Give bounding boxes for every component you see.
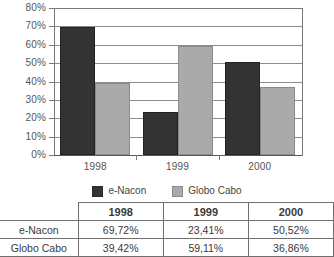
legend-item-e-nacon: e-Nacon bbox=[92, 186, 146, 197]
y-axis-tick bbox=[49, 118, 54, 119]
table-body: e-Nacon 69,72% 23,41% 50,52% Globo Cabo … bbox=[0, 221, 334, 257]
x-axis-tick bbox=[136, 155, 137, 160]
table-cell-e-nacon-2000: 50,52% bbox=[248, 221, 333, 239]
y-axis-tick-label: 70% bbox=[25, 21, 46, 31]
x-axis-label-1999: 1999 bbox=[166, 161, 189, 172]
table-row-label-globo-cabo: Globo Cabo bbox=[0, 239, 78, 257]
table-col-header-1999: 1999 bbox=[163, 203, 248, 221]
legend-item-globo-cabo: Globo Cabo bbox=[172, 186, 241, 197]
bar-chart-figure: 0%10%20%30%40%50%60%70%80% 199819992000 … bbox=[0, 0, 334, 257]
dark-square-swatch bbox=[92, 186, 103, 197]
y-axis-tick bbox=[49, 26, 54, 27]
table-cell-e-nacon-1999: 23,41% bbox=[163, 221, 248, 239]
plot-area-wrapper: 0%10%20%30%40%50%60%70%80% 199819992000 bbox=[0, 0, 334, 182]
y-axis-tick bbox=[49, 82, 54, 83]
y-axis-tick-label: 80% bbox=[25, 3, 46, 13]
legend-label: Globo Cabo bbox=[188, 186, 241, 196]
y-axis-tick-label: 60% bbox=[25, 40, 46, 50]
table-col-header-1998: 1998 bbox=[78, 203, 163, 221]
y-axis-tick-label: 10% bbox=[25, 132, 46, 142]
data-table: 1998 1999 2000 e-Nacon 69,72% 23,41% 50,… bbox=[0, 202, 334, 257]
table-header: 1998 1999 2000 bbox=[0, 203, 334, 221]
x-axis-line bbox=[54, 155, 302, 156]
x-axis-tick bbox=[219, 155, 220, 160]
y-axis-tick bbox=[49, 8, 54, 9]
bar-globo-cabo-2000 bbox=[260, 87, 295, 155]
y-axis-tick bbox=[49, 137, 54, 138]
bar-globo-cabo-1999 bbox=[178, 46, 213, 155]
bar-e-nacon-1998 bbox=[60, 27, 95, 155]
table-corner-cell bbox=[0, 203, 78, 221]
y-axis-tick-label: 50% bbox=[25, 58, 46, 68]
table-cell-globo-cabo-1999: 59,11% bbox=[163, 239, 248, 257]
x-axis-label-1998: 1998 bbox=[84, 161, 107, 172]
y-axis-tick bbox=[49, 45, 54, 46]
y-axis-labels: 0%10%20%30%40%50%60%70%80% bbox=[0, 0, 52, 182]
table-cell-globo-cabo-2000: 36,86% bbox=[248, 239, 333, 257]
bar-e-nacon-1999 bbox=[143, 112, 178, 155]
data-table-wrapper: 1998 1999 2000 e-Nacon 69,72% 23,41% 50,… bbox=[0, 202, 334, 257]
gray-square-swatch bbox=[172, 186, 183, 197]
bar-series-container bbox=[54, 8, 301, 155]
table-header-row: 1998 1999 2000 bbox=[0, 203, 334, 221]
bar-globo-cabo-1998 bbox=[95, 83, 130, 155]
x-axis-label-2000: 2000 bbox=[248, 161, 271, 172]
table-row: e-Nacon 69,72% 23,41% 50,52% bbox=[0, 221, 334, 239]
y-axis-tick-label: 20% bbox=[25, 113, 46, 123]
table-row: Globo Cabo 39,42% 59,11% 36,86% bbox=[0, 239, 334, 257]
table-cell-e-nacon-1998: 69,72% bbox=[78, 221, 163, 239]
y-axis-tick bbox=[49, 155, 54, 156]
legend-label: e-Nacon bbox=[108, 186, 146, 196]
y-axis-tick bbox=[49, 100, 54, 101]
y-axis-tick-label: 0% bbox=[31, 150, 46, 160]
table-col-header-2000: 2000 bbox=[248, 203, 333, 221]
bar-e-nacon-2000 bbox=[225, 62, 260, 155]
y-axis-tick bbox=[49, 63, 54, 64]
table-cell-globo-cabo-1998: 39,42% bbox=[78, 239, 163, 257]
chart-legend: e-NaconGlobo Cabo bbox=[0, 184, 334, 198]
y-axis-tick-label: 30% bbox=[25, 95, 46, 105]
y-axis-tick-label: 40% bbox=[25, 77, 46, 87]
table-row-label-e-nacon: e-Nacon bbox=[0, 221, 78, 239]
